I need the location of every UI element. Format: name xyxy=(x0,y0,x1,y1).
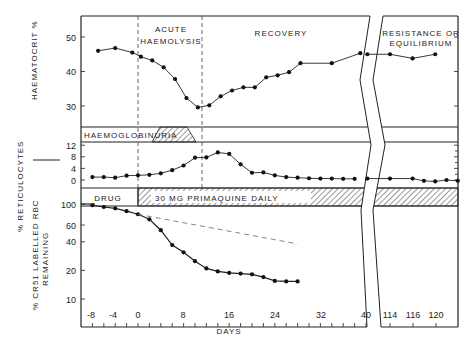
phase-resistance-label-2: EQUILIBRIUM xyxy=(389,39,452,48)
phase-acute-label-1: ACUTE xyxy=(155,25,187,34)
svg-text:100: 100 xyxy=(61,200,76,210)
svg-text:8: 8 xyxy=(71,152,76,162)
svg-text:32: 32 xyxy=(316,310,326,320)
svg-text:24: 24 xyxy=(270,310,280,320)
svg-text:8: 8 xyxy=(180,310,185,320)
svg-text:120: 120 xyxy=(428,310,443,320)
svg-text:40: 40 xyxy=(361,310,371,320)
plot-frame xyxy=(81,16,458,327)
phase-recovery-label: RECOVERY xyxy=(255,29,308,38)
ylabel-haematocrit: HAEMATOCRIT % xyxy=(30,20,39,100)
svg-text:0: 0 xyxy=(135,310,140,320)
svg-text:40: 40 xyxy=(66,67,76,77)
svg-text:116: 116 xyxy=(406,310,420,320)
svg-text:10: 10 xyxy=(66,295,76,305)
haemoglobinuria-label: HAEMOGLOBINURIA xyxy=(84,131,178,140)
svg-text:50: 50 xyxy=(66,33,76,43)
svg-text:12: 12 xyxy=(66,141,76,151)
svg-text:114: 114 xyxy=(383,310,397,320)
svg-text:20: 20 xyxy=(66,266,76,276)
svg-text:40: 40 xyxy=(66,237,76,247)
xlabel-days: DAYS xyxy=(216,327,241,336)
ylabel-cr51-2: REMAINING xyxy=(41,232,50,286)
svg-text:30: 30 xyxy=(66,102,76,112)
primaquine-label: 30 MG PRIMAQUINE DAILY xyxy=(155,194,279,203)
phase-acute-label-2: HAEMOLYSIS xyxy=(140,37,201,46)
x-ticks: -8-40816243240114116120 xyxy=(87,310,444,327)
svg-text:4: 4 xyxy=(71,164,76,174)
ylabel-reticulocytes: % RETICULOCYTES xyxy=(16,141,25,232)
svg-text:0: 0 xyxy=(71,176,76,186)
svg-text:-4: -4 xyxy=(109,310,117,320)
svg-text:60: 60 xyxy=(66,221,76,231)
y-ticks: 5040301284010060402010 xyxy=(61,33,458,305)
svg-text:-8: -8 xyxy=(87,310,95,320)
ylabel-cr51-1: % CR51 LABELLED RBC xyxy=(31,199,40,310)
svg-text:16: 16 xyxy=(224,310,234,320)
axis-break xyxy=(360,16,385,327)
drug-label: DRUG xyxy=(94,194,122,203)
phase-resistance-label-1: RESISTANCE OR xyxy=(382,29,460,38)
haemolysis-chart: ACUTE HAEMOLYSIS RECOVERY RESISTANCE OR … xyxy=(0,0,465,339)
